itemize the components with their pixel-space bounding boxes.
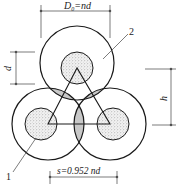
callout-1-label: 1 [6,171,11,182]
inner-diameter-label: d [2,65,13,71]
height-label: h [158,96,169,101]
triangular-three-circle-diagram: D0=nd d h s=0.952 nd 2 1 [0,0,184,194]
callout-2-leader [103,34,128,59]
callout-2-label: 2 [129,26,134,37]
spacing-label: s=0.952 nd [57,166,101,176]
outer-diameter-label: D0=nd [63,0,92,12]
callout-1-leader [13,138,36,172]
inner-diameter-dimension [10,51,35,85]
